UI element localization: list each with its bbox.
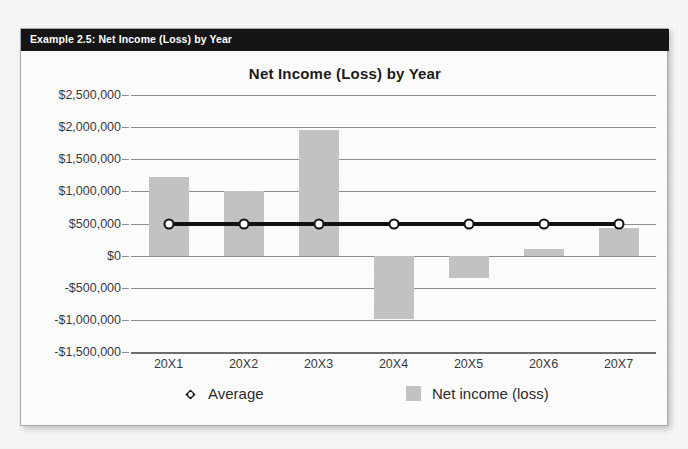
- y-axis-tick-label: $1,500,000: [17, 152, 121, 166]
- plot-area: [131, 95, 656, 352]
- average-data-point: [238, 219, 249, 230]
- y-axis-tick: [122, 320, 129, 321]
- y-axis-tick-label: $500,000: [17, 217, 121, 231]
- y-axis-tick: [122, 191, 129, 192]
- exhibit-header-label: Example 2.5: Net Income (Loss) by Year: [30, 33, 232, 45]
- chart-title: Net Income (Loss) by Year: [21, 65, 669, 82]
- y-axis-tick-label: $2,500,000: [17, 88, 121, 102]
- legend-label-average: Average: [208, 385, 264, 402]
- y-axis-tick: [122, 127, 129, 128]
- average-data-point: [388, 219, 399, 230]
- x-axis-labels: 20X120X220X320X420X520X620X7: [131, 357, 656, 377]
- gridline: [131, 352, 656, 354]
- y-axis-tick-label: $1,000,000: [17, 184, 121, 198]
- gridline: [131, 127, 656, 128]
- legend-label-net-income: Net income (loss): [432, 385, 549, 402]
- chart-legend: Average Net income (loss): [21, 385, 669, 415]
- average-data-point: [313, 219, 324, 230]
- y-axis-tick: [122, 256, 129, 257]
- y-axis-labels: $2,500,000$2,000,000$1,500,000$1,000,000…: [21, 95, 121, 352]
- bar-net-income: [149, 177, 189, 256]
- x-axis-tick-label: 20X4: [357, 357, 431, 371]
- x-axis-tick-label: 20X2: [207, 357, 281, 371]
- y-axis-tick-label: $2,000,000: [17, 120, 121, 134]
- y-axis-tick-label: -$1,000,000: [17, 313, 121, 327]
- average-data-point: [463, 219, 474, 230]
- x-axis-tick-label: 20X7: [582, 357, 656, 371]
- x-axis-tick-label: 20X5: [432, 357, 506, 371]
- average-data-point: [613, 219, 624, 230]
- bar-net-income: [524, 249, 564, 256]
- y-axis-tick-label: -$1,500,000: [17, 345, 121, 359]
- gridline: [131, 95, 656, 96]
- gridline: [131, 191, 656, 192]
- y-axis-tick-label: $0: [17, 249, 121, 263]
- average-marker-icon: [184, 387, 197, 400]
- legend-item-net-income: Net income (loss): [406, 385, 549, 402]
- bar-net-income: [374, 256, 414, 319]
- x-axis-tick-label: 20X1: [132, 357, 206, 371]
- legend-item-average: Average: [184, 385, 264, 402]
- y-axis-tick: [122, 224, 129, 225]
- y-axis-tick: [122, 95, 129, 96]
- bar-net-income: [449, 256, 489, 278]
- x-axis-tick-label: 20X6: [507, 357, 581, 371]
- y-axis-tick: [122, 159, 129, 160]
- exhibit-card: Example 2.5: Net Income (Loss) by Year N…: [20, 28, 668, 426]
- bar-net-income: [599, 228, 639, 256]
- bar-net-income: [299, 130, 339, 255]
- net-income-swatch-icon: [406, 386, 421, 401]
- y-axis-tick: [122, 352, 129, 353]
- average-data-point: [538, 219, 549, 230]
- exhibit-header-bar: Example 2.5: Net Income (Loss) by Year: [21, 29, 669, 51]
- average-data-point: [163, 219, 174, 230]
- y-axis-tick-label: -$500,000: [17, 281, 121, 295]
- y-axis-tick: [122, 288, 129, 289]
- gridline: [131, 320, 656, 321]
- x-axis-tick-label: 20X3: [282, 357, 356, 371]
- gridline: [131, 159, 656, 160]
